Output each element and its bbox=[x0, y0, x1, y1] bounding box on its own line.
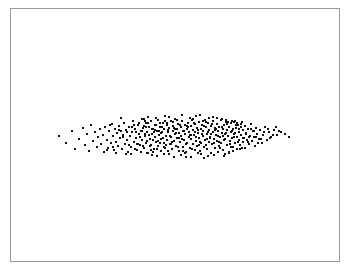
data-point bbox=[108, 130, 110, 132]
data-point bbox=[272, 134, 274, 136]
data-point bbox=[185, 143, 187, 145]
data-point bbox=[196, 127, 198, 129]
data-point bbox=[160, 138, 162, 140]
data-point bbox=[248, 136, 250, 138]
data-point bbox=[107, 147, 109, 149]
data-point bbox=[224, 153, 226, 155]
data-point bbox=[201, 133, 203, 135]
data-point bbox=[216, 117, 218, 119]
data-point bbox=[154, 136, 156, 138]
data-point bbox=[153, 131, 155, 133]
data-point bbox=[130, 153, 132, 155]
data-point bbox=[231, 137, 233, 139]
data-point bbox=[203, 125, 205, 127]
data-point bbox=[160, 132, 162, 134]
data-point bbox=[231, 130, 233, 132]
data-point bbox=[119, 137, 121, 139]
data-point bbox=[151, 133, 153, 135]
data-point bbox=[165, 144, 167, 146]
data-point bbox=[176, 137, 178, 139]
data-point bbox=[167, 131, 169, 133]
data-point bbox=[233, 136, 235, 138]
data-point bbox=[170, 120, 172, 122]
data-point bbox=[214, 129, 216, 131]
data-point bbox=[126, 139, 128, 141]
data-point bbox=[229, 140, 231, 142]
data-point bbox=[112, 135, 114, 137]
data-point bbox=[203, 146, 205, 148]
data-point bbox=[186, 128, 188, 130]
data-point bbox=[131, 126, 133, 128]
data-point bbox=[241, 121, 243, 123]
data-point bbox=[114, 128, 116, 130]
data-point bbox=[167, 129, 169, 131]
data-point bbox=[181, 114, 183, 116]
data-point bbox=[138, 122, 140, 124]
data-point bbox=[218, 126, 220, 128]
data-point bbox=[190, 134, 192, 136]
data-point bbox=[191, 148, 193, 150]
data-point bbox=[156, 155, 158, 157]
data-point bbox=[161, 126, 163, 128]
data-point bbox=[209, 137, 211, 139]
data-point bbox=[123, 122, 125, 124]
data-point bbox=[145, 122, 147, 124]
data-point bbox=[222, 128, 224, 130]
data-point bbox=[103, 151, 105, 153]
data-point bbox=[148, 126, 150, 128]
data-point bbox=[178, 132, 180, 134]
data-point bbox=[141, 139, 143, 141]
screenshot-root bbox=[0, 0, 349, 272]
data-point bbox=[205, 144, 207, 146]
data-point bbox=[206, 138, 208, 140]
data-point bbox=[255, 127, 257, 129]
data-point bbox=[255, 136, 257, 138]
data-point bbox=[208, 129, 210, 131]
data-point bbox=[242, 137, 244, 139]
data-point bbox=[71, 130, 73, 132]
data-point bbox=[234, 142, 236, 144]
data-point bbox=[175, 145, 177, 147]
data-point bbox=[194, 149, 196, 151]
data-point bbox=[245, 133, 247, 135]
data-point bbox=[152, 139, 154, 141]
data-point bbox=[109, 124, 111, 126]
data-point bbox=[218, 145, 220, 147]
data-point bbox=[251, 140, 253, 142]
data-point bbox=[231, 120, 233, 122]
data-point bbox=[168, 127, 170, 129]
data-point bbox=[193, 134, 195, 136]
data-point bbox=[222, 135, 224, 137]
data-point bbox=[180, 126, 182, 128]
data-point bbox=[207, 122, 209, 124]
data-point bbox=[184, 152, 186, 154]
data-point bbox=[237, 124, 239, 126]
data-point bbox=[150, 149, 152, 151]
data-point bbox=[192, 143, 194, 145]
data-point bbox=[121, 148, 123, 150]
data-point bbox=[172, 121, 174, 123]
plot-frame-border bbox=[10, 8, 340, 262]
data-point bbox=[136, 149, 138, 151]
data-point bbox=[240, 134, 242, 136]
data-point bbox=[233, 121, 235, 123]
data-point bbox=[197, 129, 199, 131]
data-point bbox=[240, 126, 242, 128]
data-point bbox=[262, 134, 264, 136]
data-point bbox=[166, 122, 168, 124]
data-point bbox=[214, 147, 216, 149]
data-point bbox=[238, 139, 240, 141]
data-point bbox=[113, 149, 115, 151]
data-point bbox=[166, 124, 168, 126]
data-point bbox=[250, 128, 252, 130]
data-point bbox=[190, 125, 192, 127]
data-point bbox=[118, 129, 120, 131]
data-point bbox=[201, 124, 203, 126]
data-point bbox=[148, 134, 150, 136]
data-point bbox=[134, 148, 136, 150]
data-point bbox=[217, 130, 219, 132]
data-point bbox=[153, 148, 155, 150]
data-point bbox=[149, 145, 151, 147]
data-point bbox=[199, 141, 201, 143]
data-point bbox=[194, 131, 196, 133]
